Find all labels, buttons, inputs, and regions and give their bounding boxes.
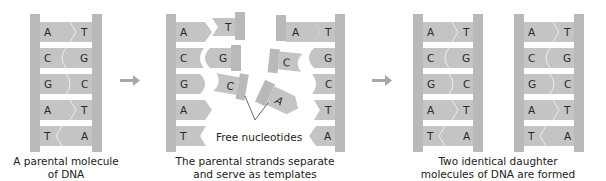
svg-text:G: G: [462, 52, 470, 64]
base-label: A: [44, 26, 52, 38]
caption-separation: The parental strands separate and serve …: [160, 155, 350, 181]
free-nucleotide: G: [205, 45, 241, 71]
free-nucleotide: A: [255, 80, 303, 120]
svg-text:C: C: [282, 56, 291, 69]
svg-text:C: C: [564, 78, 571, 90]
svg-text:T: T: [426, 130, 434, 142]
svg-text:A: A: [324, 130, 332, 142]
svg-text:C: C: [427, 52, 434, 64]
svg-text:A: A: [528, 104, 536, 116]
base-pair-row: A T: [40, 100, 92, 120]
svg-text:G: G: [528, 78, 536, 90]
left-backbone: [30, 14, 40, 152]
svg-text:G: G: [563, 52, 571, 64]
base-label: C: [44, 52, 51, 64]
svg-text:A: A: [528, 26, 536, 38]
svg-text:T: T: [527, 130, 535, 142]
svg-text:T: T: [462, 26, 470, 38]
caption-parental: A parental molecule of DNA: [0, 155, 132, 181]
svg-text:T: T: [179, 130, 187, 142]
free-nucleotide: A: [276, 15, 320, 42]
pointer-line: [245, 96, 255, 120]
svg-text:T: T: [563, 104, 571, 116]
base-label: T: [80, 104, 88, 116]
daughter-molecule-2: A T C G G C A T T A: [514, 14, 584, 152]
free-nucleotides-label: Free nucleotides: [216, 131, 302, 143]
base-label: G: [44, 78, 52, 90]
svg-text:T: T: [324, 26, 332, 38]
svg-text:C: C: [180, 52, 187, 64]
base-pair-row: T A: [40, 126, 92, 146]
svg-text:T: T: [324, 104, 332, 116]
base-pair-row: G C: [40, 74, 92, 94]
base-label: A: [81, 130, 89, 142]
svg-text:A: A: [427, 26, 435, 38]
caption-line: A parental molecule: [0, 155, 132, 168]
base-pair-row: C G: [40, 48, 92, 68]
dna-replication-diagram: A T C G G C A T T A: [0, 0, 606, 181]
caption-line: and serve as templates: [160, 168, 350, 181]
right-template-backbone: [335, 14, 345, 152]
free-nucleotide: T: [212, 12, 245, 40]
free-nucleotide: C: [268, 48, 303, 75]
base-label: T: [43, 130, 51, 142]
pointer-line: [255, 103, 268, 120]
svg-text:A: A: [180, 26, 188, 38]
svg-text:A: A: [427, 104, 435, 116]
svg-text:T: T: [224, 21, 232, 33]
caption-line: molecules of DNA are formed: [405, 168, 591, 181]
base-label: T: [80, 26, 88, 38]
parental-dna-molecule: A T C G G C A T T A: [30, 14, 102, 152]
base-label: A: [44, 104, 52, 116]
daughter-molecule-1: A T C G G C A T T A: [413, 14, 483, 152]
svg-text:G: G: [180, 78, 188, 90]
svg-text:C: C: [463, 78, 470, 90]
caption-line: Two identical daughter: [405, 155, 591, 168]
left-template-backbone: [166, 14, 176, 152]
caption-line: The parental strands separate: [160, 155, 350, 168]
right-arrow-icon: [120, 75, 140, 86]
free-nucleotide: C: [213, 69, 249, 100]
svg-text:T: T: [563, 26, 571, 38]
svg-text:T: T: [462, 104, 470, 116]
svg-text:G: G: [427, 78, 435, 90]
svg-text:A: A: [180, 104, 188, 116]
caption-line: of DNA: [0, 168, 132, 181]
right-arrow-icon: [372, 75, 392, 86]
base-label: G: [80, 52, 88, 64]
svg-text:A: A: [292, 26, 300, 38]
svg-text:G: G: [324, 52, 332, 64]
right-backbone: [92, 14, 102, 152]
svg-text:A: A: [564, 130, 572, 142]
base-label: C: [81, 78, 88, 90]
svg-text:G: G: [219, 52, 227, 64]
svg-text:C: C: [325, 78, 332, 90]
base-pair-row: A T: [40, 22, 92, 42]
caption-daughters: Two identical daughter molecules of DNA …: [405, 155, 591, 181]
svg-text:C: C: [528, 52, 535, 64]
svg-text:A: A: [463, 130, 471, 142]
